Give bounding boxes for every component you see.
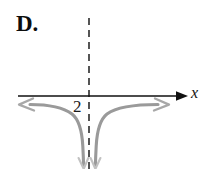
x-tick-label-2: 2: [73, 98, 82, 115]
curve-right-branch: [95, 105, 158, 167]
choice-label: D.: [16, 12, 38, 35]
x-axis-arrowhead-icon: [176, 91, 188, 101]
figure-container: D. x 2: [0, 0, 214, 169]
x-axis-label: x: [191, 85, 198, 101]
